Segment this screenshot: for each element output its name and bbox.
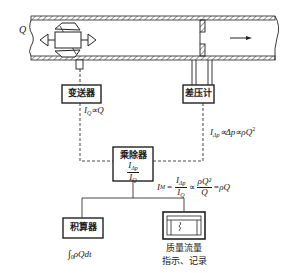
- formula-eq: =: [167, 183, 172, 192]
- recorder-label-line1: 质量流量: [154, 244, 214, 253]
- recorder-label-line2: 指示、记录: [154, 257, 214, 266]
- integral-label: ∫0ρQdt: [68, 249, 92, 260]
- integral-body: ρQdt: [74, 249, 92, 259]
- dp-gauge-label: 差压计: [183, 89, 214, 98]
- ratio-den-sub: Q: [132, 177, 136, 183]
- frac1-den-sub: Q: [180, 192, 184, 198]
- frac2-den: Q: [201, 188, 208, 198]
- frac1-num-sub: Δp: [179, 180, 186, 186]
- impulse-tubes: [192, 60, 212, 85]
- ratio-num-sub: Δp: [131, 165, 138, 171]
- idp-rest: ∝Δp∝ρQ: [220, 127, 253, 137]
- formula-result: =ρQ: [213, 183, 230, 192]
- flow-arrow-icon: [230, 36, 252, 40]
- multiplier-ratio: IΔp IQ: [113, 161, 153, 183]
- orifice-plate-icon: [200, 20, 205, 56]
- iq-rest: ∝Q: [91, 105, 104, 115]
- flow-sensor-icon: [40, 23, 96, 57]
- mass-flow-formula: IM = IΔp IQ ∝ ρQ² Q =ρQ: [157, 176, 230, 198]
- frac2-num: ρQ²: [197, 177, 213, 188]
- formula-prop: ∝: [189, 183, 195, 192]
- formula-lhs-sub: M: [160, 184, 165, 190]
- iq-signal-label: IQ∝Q: [84, 106, 104, 116]
- idp-signal-label: IΔp∝Δp∝ρQ2: [210, 126, 255, 138]
- transmitter-stem: [76, 60, 83, 69]
- recorder-icon: [163, 212, 205, 239]
- transmitter-label: 变送器: [62, 89, 101, 98]
- integrator-label: 积算器: [63, 223, 103, 232]
- multiplier-divider-label: 乘除器: [113, 151, 153, 160]
- idp-superscript: 2: [252, 126, 255, 132]
- flow-label-q: Q: [19, 25, 26, 35]
